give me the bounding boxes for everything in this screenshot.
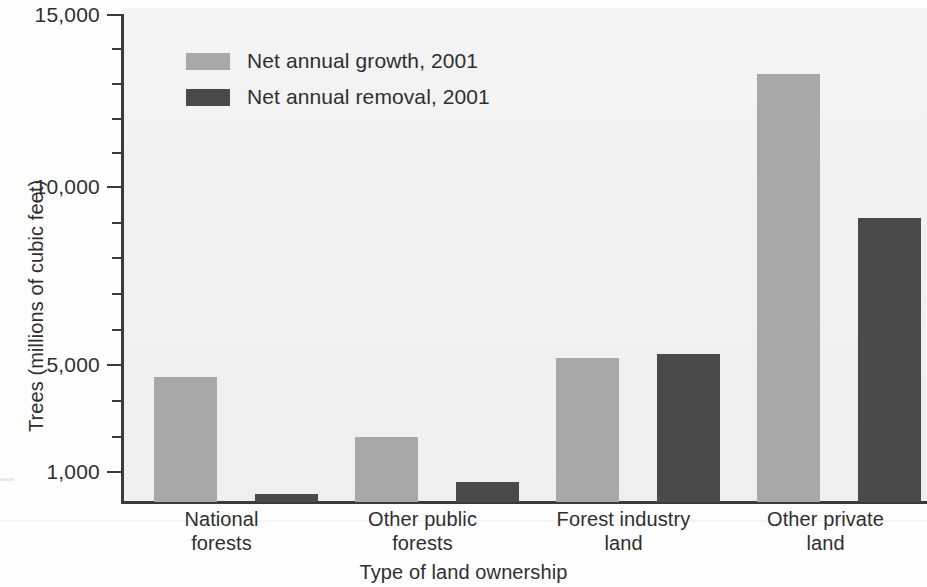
bar-group-forest-industry-land xyxy=(523,8,724,502)
bar-growth-national-forests xyxy=(154,377,217,502)
bar-growth-forest-industry-land xyxy=(556,358,619,502)
bar-growth-other-private-land xyxy=(757,74,820,502)
x-tick-label-line-1: Other private xyxy=(724,508,927,532)
legend-swatch-growth-icon xyxy=(186,53,230,70)
y-tick-label-1000: 1,000 xyxy=(0,460,100,484)
legend-entry-net-annual-removal: Net annual removal, 2001 xyxy=(186,82,490,112)
x-tick-label-line-2: land xyxy=(724,532,927,556)
legend-label-growth: Net annual growth, 2001 xyxy=(247,49,478,73)
bar-group-other-private-land xyxy=(724,8,927,502)
x-axis-title: Type of land ownership xyxy=(0,561,927,584)
x-tick-label-line-2: forests xyxy=(121,532,322,556)
y-tick-label-5000: 5,000 xyxy=(0,353,100,377)
y-tick-label-15000: 15,000 xyxy=(0,3,100,27)
legend-label-removal: Net annual removal, 2001 xyxy=(247,85,490,109)
x-tick-label-line-2: forests xyxy=(322,532,523,556)
x-tick-label-line-1: Other public xyxy=(322,508,523,532)
y-axis-title: Trees (millions of cubic feet) xyxy=(25,180,48,432)
x-tick-label-other-public-forests: Other public forests xyxy=(322,508,523,555)
legend-swatch-removal-icon xyxy=(186,89,230,106)
bar-removal-forest-industry-land xyxy=(657,354,720,502)
x-tick-label-line-2: land xyxy=(523,532,724,556)
legend-entry-net-annual-growth: Net annual growth, 2001 xyxy=(186,46,490,76)
y-tick-label-10000: 10,000 xyxy=(0,175,100,199)
bar-removal-national-forests xyxy=(255,494,318,502)
chart-legend: Net annual growth, 2001 Net annual remov… xyxy=(186,46,490,118)
x-tick-label-line-1: Forest industry xyxy=(523,508,724,532)
x-tick-label-national-forests: National forests xyxy=(121,508,322,555)
x-tick-label-forest-industry-land: Forest industry land xyxy=(523,508,724,555)
x-tick-label-line-1: National xyxy=(121,508,322,532)
bar-growth-other-public-forests xyxy=(355,437,418,502)
chart-figure: 15,000 10,000 5,000 1,000 Trees (million… xyxy=(0,0,927,587)
bar-removal-other-private-land xyxy=(858,218,921,502)
x-tick-label-other-private-land: Other private land xyxy=(724,508,927,555)
bar-removal-other-public-forests xyxy=(456,482,519,502)
